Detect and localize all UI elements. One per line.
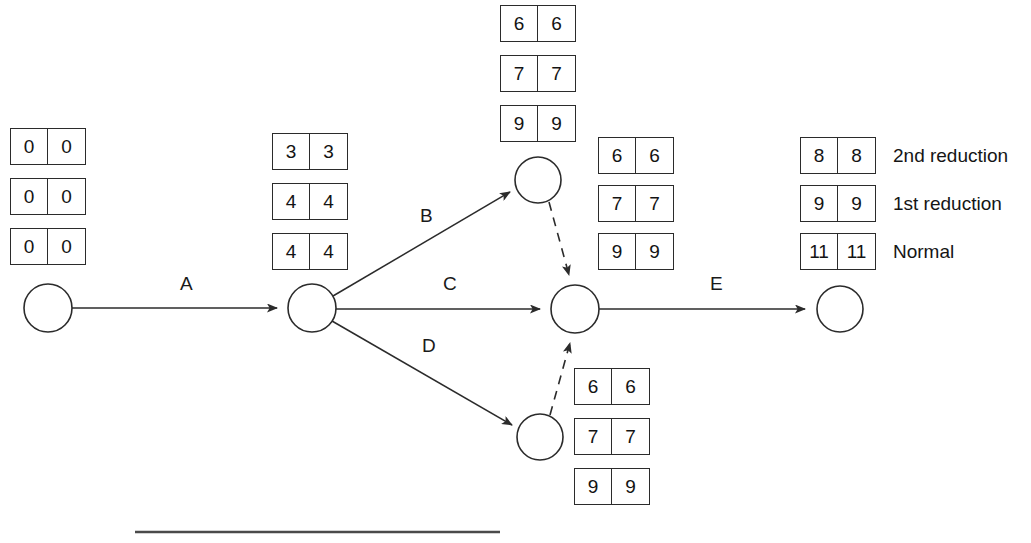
value-cell-right: 0 (48, 129, 85, 164)
value-cell-left: 9 (501, 106, 538, 141)
value-cell-right: 6 (636, 138, 673, 173)
value-cell-left: 6 (575, 369, 612, 404)
value-cell-left: 11 (801, 234, 838, 269)
value-cell-left: 4 (273, 234, 310, 269)
value-cell-left: 9 (599, 234, 636, 269)
value-box: 6 6 (598, 137, 674, 174)
value-cell-left: 8 (801, 138, 838, 173)
value-box: 7 7 (500, 55, 576, 92)
value-cell-right: 9 (612, 469, 649, 504)
value-cell-right: 3 (310, 134, 347, 169)
value-box: 0 0 (10, 228, 86, 265)
value-box: 6 6 (500, 5, 576, 42)
value-cell-left: 0 (11, 229, 48, 264)
value-cell-left: 0 (11, 179, 48, 214)
edge-label-B: B (420, 205, 433, 227)
legend-label-normal: Normal (893, 241, 954, 263)
value-box: 4 4 (272, 233, 348, 270)
node-merge[interactable] (551, 285, 599, 333)
value-cell-left: 7 (501, 56, 538, 91)
value-cell-right: 7 (636, 186, 673, 221)
node-end[interactable] (817, 286, 863, 332)
value-cell-right: 7 (612, 419, 649, 454)
value-cell-right: 4 (310, 234, 347, 269)
value-box: 4 4 (272, 183, 348, 220)
value-cell-right: 6 (538, 6, 575, 41)
value-cell-left: 6 (501, 6, 538, 41)
value-cell-right: 8 (838, 138, 875, 173)
value-box: 9 9 (500, 105, 576, 142)
value-box: 6 6 (574, 368, 650, 405)
node-top[interactable] (515, 157, 561, 203)
value-box: 9 9 (574, 468, 650, 505)
value-box: 8 8 (800, 137, 876, 174)
edge-label-C: C (443, 273, 457, 295)
node-2[interactable] (288, 284, 336, 332)
value-cell-right: 9 (538, 106, 575, 141)
legend-label-1st-reduction: 1st reduction (893, 193, 1002, 215)
value-box: 11 11 (800, 233, 876, 270)
value-cell-left: 4 (273, 184, 310, 219)
edge-label-D: D (422, 335, 436, 357)
value-cell-right: 0 (48, 229, 85, 264)
value-box: 7 7 (598, 185, 674, 222)
value-box: 9 9 (800, 185, 876, 222)
edge-label-A: A (180, 273, 193, 295)
value-cell-left: 3 (273, 134, 310, 169)
edges-layer (72, 192, 805, 425)
node-bottom[interactable] (517, 414, 563, 460)
value-cell-left: 0 (11, 129, 48, 164)
value-box: 9 9 (598, 233, 674, 270)
legend-label-2nd-reduction: 2nd reduction (893, 145, 1008, 167)
value-cell-right: 11 (838, 234, 875, 269)
network-diagram-canvas: A B C D E 0 0 0 0 0 0 3 3 4 4 4 4 (0, 0, 1031, 543)
node-start[interactable] (24, 284, 72, 332)
value-cell-left: 9 (575, 469, 612, 504)
value-box: 3 3 (272, 133, 348, 170)
value-cell-right: 0 (48, 179, 85, 214)
value-box: 0 0 (10, 128, 86, 165)
value-cell-right: 7 (538, 56, 575, 91)
value-cell-left: 7 (575, 419, 612, 454)
value-cell-left: 6 (599, 138, 636, 173)
edge-dummy-top-to-merge (549, 202, 569, 275)
value-box: 7 7 (574, 418, 650, 455)
value-box: 0 0 (10, 178, 86, 215)
value-cell-right: 4 (310, 184, 347, 219)
edge-label-E: E (710, 273, 723, 295)
edge-dummy-bottom-to-merge (550, 343, 570, 415)
value-cell-right: 9 (636, 234, 673, 269)
value-cell-right: 6 (612, 369, 649, 404)
value-cell-right: 9 (838, 186, 875, 221)
value-cell-left: 9 (801, 186, 838, 221)
value-cell-left: 7 (599, 186, 636, 221)
